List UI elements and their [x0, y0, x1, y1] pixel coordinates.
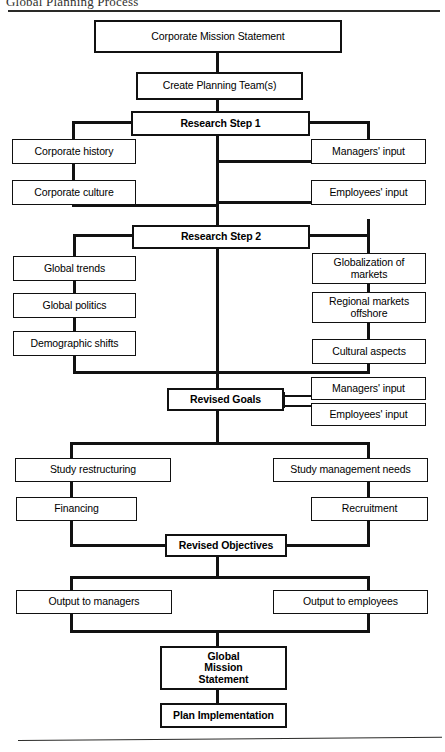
node-label: Global trends	[41, 263, 108, 275]
flowchart-page: Global Planning Process Corporate Missio…	[0, 0, 445, 752]
node-recruitment[interactable]: Recruitment	[311, 497, 428, 521]
connector-recruitment-down	[367, 519, 370, 546]
connector-global-mission-to-plan	[216, 689, 219, 704]
connector-research1-left-stub	[72, 121, 133, 124]
node-cultural-aspects[interactable]: Cultural aspects	[312, 339, 426, 364]
node-study-management-needs[interactable]: Study management needs	[273, 458, 428, 482]
connector-recruitment-to-objectives	[285, 544, 370, 547]
node-label: Research Step 1	[177, 118, 263, 130]
connector-research2-to-revised-goals	[216, 248, 219, 390]
node-label: Corporate culture	[31, 187, 116, 199]
node-label: Create Planning Team(s)	[160, 80, 280, 92]
node-label: Corporate history	[32, 146, 117, 158]
node-employees-input-2[interactable]: Employees' input	[311, 403, 426, 426]
node-managers-input-1[interactable]: Managers' input	[311, 139, 426, 164]
node-label-line2: offshore	[351, 307, 388, 319]
node-label: Regional markets offshore	[326, 296, 412, 319]
connector-research2-right-stub	[308, 234, 370, 237]
bottom-divider-rule	[18, 737, 442, 741]
node-label: Demographic shifts	[27, 338, 121, 350]
node-label-line2: markets	[351, 268, 388, 280]
node-employees-input-1[interactable]: Employees' input	[311, 180, 426, 205]
connector-goals-to-managers2	[283, 395, 313, 397]
connector-cultural-to-goals-spine	[216, 371, 370, 374]
node-regional-markets-offshore[interactable]: Regional markets offshore	[312, 292, 426, 323]
node-financing[interactable]: Financing	[16, 497, 137, 521]
connector-restructuring-to-financing	[70, 480, 73, 498]
node-label-line1: Regional markets	[329, 295, 409, 307]
connector-cms-to-planning-team	[216, 52, 219, 73]
node-create-planning-teams[interactable]: Create Planning Team(s)	[136, 72, 303, 100]
node-demographic-shifts[interactable]: Demographic shifts	[13, 331, 136, 356]
node-research-step-1[interactable]: Research Step 1	[131, 111, 310, 136]
node-corporate-culture[interactable]: Corporate culture	[12, 180, 136, 205]
node-label: Study restructuring	[47, 464, 139, 476]
node-label: Global politics	[40, 300, 110, 312]
node-research-step-2[interactable]: Research Step 2	[132, 225, 310, 249]
node-label: Revised Goals	[187, 394, 264, 406]
node-label: Research Step 2	[178, 231, 264, 243]
node-label: Corporate Mission Statement	[148, 31, 287, 43]
node-output-to-employees[interactable]: Output to employees	[273, 590, 428, 614]
node-global-politics[interactable]: Global politics	[13, 293, 136, 318]
connector-objectives-down	[216, 556, 219, 578]
node-label: Cultural aspects	[329, 346, 409, 358]
node-label: Managers' input	[329, 146, 408, 158]
connector-goals-split-bar	[70, 442, 370, 445]
node-label: Globalization of markets	[331, 257, 408, 280]
node-label: Recruitment	[339, 503, 401, 515]
connector-financing-to-objectives	[70, 544, 170, 547]
node-global-mission-statement[interactable]: Global Mission Statement	[160, 646, 287, 690]
connector-objectives-split-bar	[70, 576, 370, 579]
connector-merge-to-global-mission	[216, 630, 219, 647]
connector-demographic-to-goals-spine	[73, 371, 218, 374]
node-label: Plan Implementation	[170, 710, 277, 722]
node-label-line1: Globalization of	[334, 256, 405, 268]
node-label: Revised Objectives	[176, 540, 277, 552]
node-study-restructuring[interactable]: Study restructuring	[15, 458, 171, 482]
node-plan-implementation[interactable]: Plan Implementation	[160, 703, 287, 728]
node-label: Financing	[51, 503, 102, 515]
connector-output-managers-down	[70, 612, 73, 632]
connector-management-to-recruitment	[367, 480, 370, 498]
node-label: Employees' input	[326, 409, 410, 421]
node-label: Output to managers	[45, 596, 142, 608]
page-title: Global Planning Process	[6, 0, 138, 10]
node-label: Output to employees	[300, 596, 401, 608]
connector-outputs-merge-bar	[70, 630, 370, 633]
connector-research1-right-stub	[308, 121, 370, 124]
connector-output-employees-down	[367, 612, 370, 632]
node-corporate-mission-statement[interactable]: Corporate Mission Statement	[94, 20, 342, 53]
node-global-trends[interactable]: Global trends	[13, 256, 136, 281]
node-label-line2: Mission	[204, 661, 242, 673]
node-label-line3: Statement	[199, 673, 249, 685]
connector-goals-down	[216, 410, 219, 444]
connector-financing-down	[70, 519, 73, 546]
node-revised-objectives[interactable]: Revised Objectives	[165, 534, 287, 557]
node-label-line1: Global	[207, 650, 239, 662]
node-label: Employees' input	[326, 187, 410, 199]
node-globalization-of-markets[interactable]: Globalization of markets	[312, 253, 426, 284]
node-label: Managers' input	[329, 383, 408, 395]
node-managers-input-2[interactable]: Managers' input	[311, 377, 426, 400]
node-corporate-history[interactable]: Corporate history	[12, 139, 136, 164]
connector-research1-to-research2	[216, 135, 219, 226]
node-output-to-managers[interactable]: Output to managers	[16, 590, 172, 614]
node-label: Study management needs	[287, 464, 413, 476]
node-revised-goals[interactable]: Revised Goals	[167, 388, 284, 411]
top-divider-rule	[8, 10, 440, 12]
connector-employees1-to-spine	[216, 201, 314, 204]
node-label: Global Mission Statement	[196, 651, 252, 686]
connector-managers1-to-spine	[216, 160, 314, 163]
connector-goals-to-employees2	[283, 405, 313, 407]
connector-research2-left-stub	[73, 234, 134, 237]
